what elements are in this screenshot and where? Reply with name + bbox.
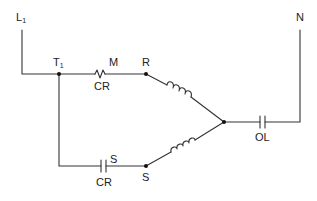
run-winding-icon: [167, 82, 191, 97]
label-t1: T1: [53, 57, 64, 69]
node-t1: [57, 72, 61, 76]
label-ol: OL: [255, 132, 270, 143]
wire-s-to-start-winding: [146, 152, 171, 166]
wire-ol-to-neutral: [265, 30, 300, 122]
label-r: R: [142, 57, 150, 68]
label-cr-start: CR: [96, 177, 112, 188]
label-m: M: [109, 57, 118, 68]
relay-coil-m-icon: [95, 70, 105, 78]
start-winding-icon: [171, 138, 195, 152]
label-t1-main: T: [53, 56, 60, 68]
wire-start-winding-to-common: [195, 122, 224, 140]
label-cr-run: CR: [94, 81, 110, 92]
node-r: [144, 72, 148, 76]
node-common: [222, 120, 226, 124]
label-s-node: S: [142, 172, 149, 183]
label-n: N: [296, 12, 304, 23]
node-s: [144, 164, 148, 168]
label-t1-sub: 1: [60, 62, 64, 69]
wire-r-to-run-winding: [146, 74, 167, 85]
label-l1: L1: [16, 12, 26, 24]
label-l1-sub: 1: [22, 17, 26, 24]
label-s-contact: S: [110, 154, 117, 165]
circuit-diagram: [0, 0, 317, 201]
wire-run-winding-to-common: [191, 97, 224, 122]
